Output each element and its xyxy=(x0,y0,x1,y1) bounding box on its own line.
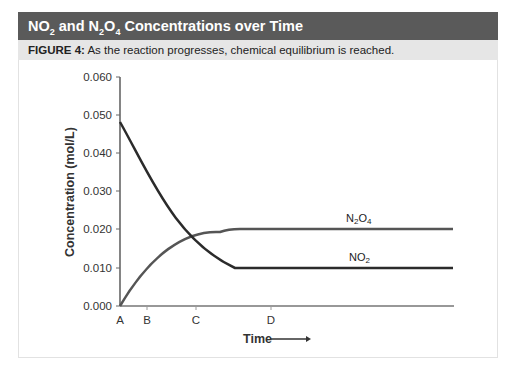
y-tick-label: 0.060 xyxy=(83,71,112,83)
x-tick-label: B xyxy=(143,314,151,326)
x-ticks: A B C D xyxy=(116,306,275,326)
y-ticks: 0.060 0.050 0.040 0.030 0.020 0.010 0.00… xyxy=(83,71,120,312)
y-tick-label: 0.020 xyxy=(83,223,112,235)
y-tick-label: 0.010 xyxy=(83,262,112,274)
y-tick-label: 0.050 xyxy=(83,109,112,121)
arrow-head-icon xyxy=(306,336,311,342)
x-tick-label: A xyxy=(116,314,124,326)
x-tick-label: C xyxy=(192,314,200,326)
y-axis-label: Concentration (mol/L) xyxy=(63,127,77,257)
y-tick-label: 0.030 xyxy=(83,185,112,197)
x-axis-label: Time xyxy=(243,332,272,346)
n2o4-label: N2O4 xyxy=(346,212,372,226)
y-tick-label: 0.000 xyxy=(83,300,112,312)
chart: 0.060 0.050 0.040 0.030 0.020 0.010 0.00… xyxy=(0,0,518,370)
y-tick-label: 0.040 xyxy=(83,147,112,159)
no2-label: NO2 xyxy=(349,251,371,265)
x-tick-label: D xyxy=(267,314,275,326)
no2-line xyxy=(120,122,453,268)
